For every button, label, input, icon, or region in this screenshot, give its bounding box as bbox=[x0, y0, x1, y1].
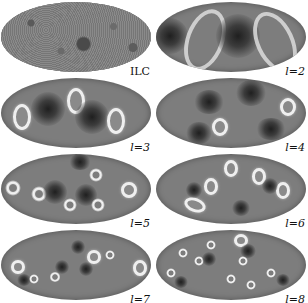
hot-spot bbox=[89, 168, 103, 182]
panel-label: l=7 bbox=[130, 293, 150, 303]
hot-band bbox=[244, 5, 305, 72]
panel-l2: l=2 bbox=[155, 0, 307, 74]
hot-ring bbox=[107, 108, 125, 134]
hot-spot bbox=[105, 250, 115, 260]
hot-ring bbox=[280, 98, 296, 116]
l8-sky-map bbox=[156, 230, 306, 300]
panel-ilc: ILC bbox=[0, 0, 152, 74]
hot-spot bbox=[178, 248, 188, 258]
cold-spot bbox=[232, 200, 250, 216]
cold-spot bbox=[186, 122, 212, 144]
panel-l7: l=7 bbox=[0, 228, 152, 302]
hot-ring bbox=[13, 104, 31, 130]
l6-sky-map bbox=[156, 154, 306, 224]
hot-ring bbox=[11, 260, 25, 274]
panel-l4: l=4 bbox=[155, 76, 307, 150]
cold-spot bbox=[79, 262, 93, 276]
cold-spot bbox=[69, 154, 91, 170]
cold-spot bbox=[256, 118, 286, 140]
cold-spot bbox=[71, 240, 85, 254]
hot-spot bbox=[63, 198, 77, 212]
hot-ring bbox=[224, 160, 238, 177]
cold-spot bbox=[202, 252, 216, 266]
hot-spot bbox=[246, 280, 256, 290]
panel-l5: l=5 bbox=[0, 152, 152, 226]
l2-sky-map bbox=[156, 2, 306, 72]
cold-spot bbox=[186, 182, 202, 198]
ilc-sky-map bbox=[1, 2, 151, 72]
panel-l6: l=6 bbox=[155, 152, 307, 226]
cold-spot bbox=[194, 90, 224, 114]
l5-sky-map bbox=[1, 154, 151, 224]
l7-sky-map bbox=[1, 230, 151, 300]
cold-spot bbox=[236, 80, 266, 106]
cold-spot bbox=[262, 178, 278, 194]
l3-sky-map bbox=[1, 78, 151, 148]
cold-spot bbox=[174, 276, 188, 288]
hot-ring bbox=[204, 178, 218, 195]
cold-spot bbox=[276, 274, 290, 286]
l4-sky-map bbox=[156, 78, 306, 148]
hot-spot bbox=[49, 272, 61, 282]
ilc-noise-texture bbox=[1, 2, 151, 72]
hot-ring bbox=[212, 118, 228, 136]
panel-l3: l=3 bbox=[0, 76, 152, 150]
hot-ring bbox=[133, 260, 147, 276]
hot-spot bbox=[266, 268, 276, 278]
panel-l8: l=8 bbox=[155, 228, 307, 302]
hot-spot bbox=[206, 240, 216, 250]
cold-spot bbox=[240, 244, 256, 258]
hot-spot bbox=[5, 180, 21, 196]
hot-ring bbox=[276, 182, 290, 199]
panel-label: l=8 bbox=[285, 293, 305, 303]
hot-ring bbox=[121, 182, 137, 198]
cold-spot bbox=[75, 100, 109, 134]
cold-spot bbox=[31, 92, 65, 126]
hot-spot bbox=[29, 274, 39, 284]
hot-spot bbox=[166, 268, 176, 278]
hot-spot bbox=[226, 274, 236, 284]
hot-spot bbox=[91, 198, 105, 212]
